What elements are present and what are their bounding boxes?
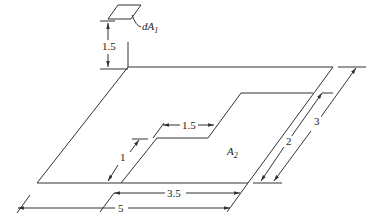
dA1-element	[108, 5, 141, 19]
diagram-lines	[0, 0, 373, 224]
diagram-canvas: dA1 1.5 1.5 1 A2 2 3 3.5 5	[0, 0, 373, 224]
outer-depth-dimension-label: 3	[313, 116, 321, 127]
inner-step-dimension-label: 1.5	[181, 120, 197, 131]
outer-length-dimension-label: 5	[117, 203, 125, 214]
height-dimension-label: 1.5	[101, 41, 117, 52]
inner-length-dimension-label: 3.5	[166, 188, 182, 199]
dA1-label: dA1	[141, 21, 159, 35]
inner-offset-dimension-label: 1	[119, 152, 127, 163]
inner-depth-dimension-label: 2	[285, 136, 293, 147]
A2-label: A2	[226, 146, 239, 160]
